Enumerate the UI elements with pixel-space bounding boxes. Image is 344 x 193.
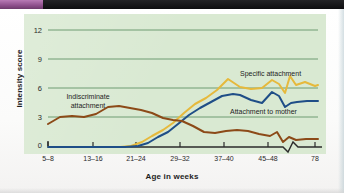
x-tick-13-16: 13–16 [73,155,113,162]
y-tick-9: 9 [26,55,42,64]
x-tick-29-32: 29–32 [160,155,200,162]
annotation-indiscriminate-line1: Indiscriminate [49,93,127,102]
figure-page: Intensity score Age in weeks 12 9 6 3 0 … [0,0,344,193]
y-tick-3: 3 [26,113,42,122]
x-tick-45-48: 45–48 [248,155,288,162]
x-tick-78: 78 [295,155,335,162]
x-tick-5-8: 5–8 [28,155,68,162]
annotation-specific-attachment: Specific attachment [240,70,301,79]
annotation-indiscriminate-line2: attachment [49,102,127,111]
x-tick-37-40: 37–40 [204,155,244,162]
y-tick-0: 0 [26,141,42,150]
y-axis-title: Intensity score [15,46,24,112]
x-axis-title: Age in weeks [0,172,344,181]
y-tick-6: 6 [26,84,42,93]
annotation-indiscriminate: Indiscriminate attachment [49,93,127,110]
x-tick-21-24: 21–24 [116,155,156,162]
y-tick-12: 12 [26,26,42,35]
annotation-attachment-to-mother: Attachment to mother [230,108,297,117]
